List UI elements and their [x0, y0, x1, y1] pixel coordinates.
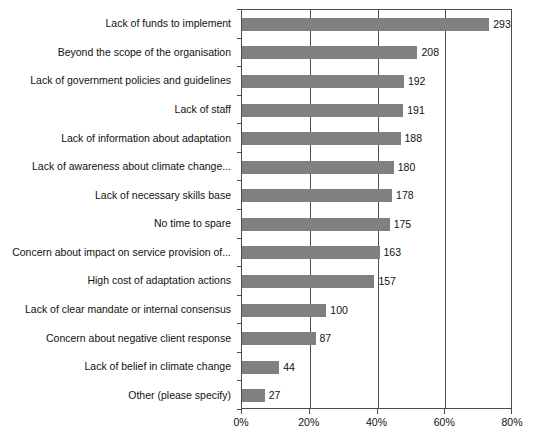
bar-value-label: 157: [378, 275, 396, 288]
bar: [242, 161, 394, 174]
bar: [242, 104, 403, 117]
bar: [242, 304, 326, 317]
bar-value-label: 163: [384, 246, 402, 259]
bar-value-label: 87: [320, 332, 332, 345]
bar-value-label: 100: [330, 304, 348, 317]
bar: [242, 46, 417, 59]
bar: [242, 332, 316, 345]
category-label: Lack of funds to implement: [106, 17, 231, 29]
bar-chart: Lack of funds to implementBeyond the sco…: [0, 0, 536, 437]
bar: [242, 389, 265, 402]
category-label: Lack of awareness about climate change..…: [32, 160, 231, 172]
bar: [242, 189, 392, 202]
bar-value-label: 192: [408, 75, 426, 88]
x-axis-label: 0%: [233, 416, 248, 429]
category-label: Concern about negative client response: [46, 332, 231, 344]
category-label: Lack of belief in climate change: [84, 360, 231, 372]
x-axis-tick: [309, 409, 310, 414]
bar-value-label: 191: [407, 104, 425, 117]
bar-value-label: 44: [283, 361, 295, 374]
category-label: Lack of necessary skills base: [95, 189, 231, 201]
bar-value-label: 188: [405, 132, 423, 145]
bar: [242, 218, 390, 231]
bar-value-label: 208: [421, 46, 439, 59]
bar: [242, 246, 380, 259]
category-label: Concern about impact on service provisio…: [12, 246, 231, 258]
x-axis-label: 40%: [366, 416, 387, 429]
gridline-20: [310, 10, 311, 408]
x-axis-label: 80%: [501, 416, 522, 429]
bar: [242, 75, 404, 88]
category-label: Other (please specify): [128, 389, 231, 401]
gridline-60: [445, 10, 446, 408]
category-label: Lack of clear mandate or internal consen…: [25, 303, 231, 315]
bar-value-label: 27: [269, 389, 281, 402]
bar: [242, 18, 489, 31]
x-axis-label: 60%: [434, 416, 455, 429]
category-label: Lack of information about adaptation: [61, 132, 231, 144]
category-label: Beyond the scope of the organisation: [58, 46, 231, 58]
plot-area: 293208192191188180178175163157100874427: [241, 9, 512, 409]
x-axis-tick-marks: [241, 409, 512, 415]
bar-value-label: 178: [396, 189, 414, 202]
bar: [242, 132, 401, 145]
bar-value-label: 175: [394, 218, 412, 231]
x-axis-tick: [511, 409, 512, 414]
x-axis-labels: 0%20%40%60%80%: [241, 416, 512, 432]
category-axis-labels: Lack of funds to implementBeyond the sco…: [0, 0, 236, 437]
bar: [242, 275, 374, 288]
bar-value-label: 180: [398, 161, 416, 174]
bar: [242, 361, 279, 374]
category-label: Lack of staff: [175, 103, 231, 115]
bar-value-label: 293: [493, 18, 511, 31]
gridline-40: [378, 10, 379, 408]
category-label: Lack of government policies and guidelin…: [30, 74, 231, 86]
x-axis-tick: [444, 409, 445, 414]
x-axis-tick: [241, 409, 242, 414]
x-axis-tick: [377, 409, 378, 414]
category-label: High cost of adaptation actions: [87, 274, 231, 286]
x-axis-label: 20%: [298, 416, 319, 429]
category-label: No time to spare: [154, 217, 231, 229]
